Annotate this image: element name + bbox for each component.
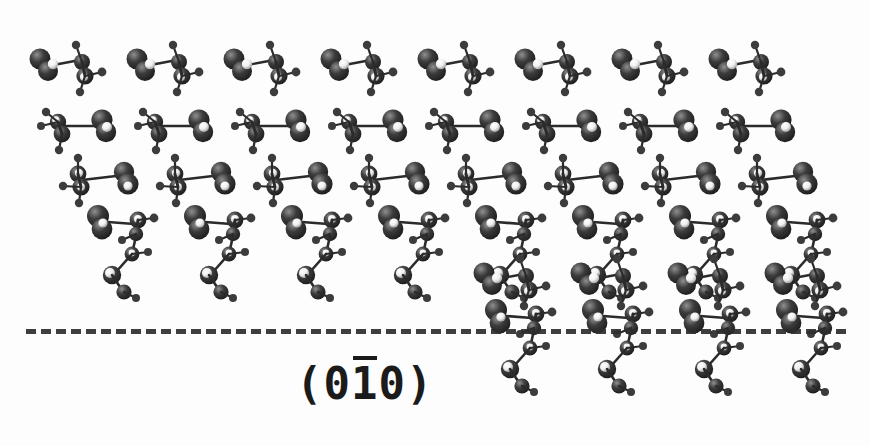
miller-h: 0 [324, 358, 352, 409]
figure-canvas: (010) [0, 0, 870, 446]
miller-open-paren: ( [296, 358, 324, 409]
miller-index-label: (010) [296, 358, 434, 409]
surface-plane-dashed-line [26, 329, 846, 334]
molecule-unit [573, 286, 673, 386]
molecule-unit [476, 286, 576, 386]
molecule-unit [670, 286, 770, 386]
molecule-unit [369, 192, 469, 292]
molecule-unit [272, 192, 372, 292]
crystal-lattice [0, 0, 870, 446]
miller-close-paren: ) [406, 358, 434, 409]
molecule-unit [767, 286, 867, 386]
miller-l: 0 [379, 358, 407, 409]
miller-k-overbar: 1 [351, 358, 379, 409]
molecule-unit [78, 192, 178, 292]
molecule-unit [175, 192, 275, 292]
